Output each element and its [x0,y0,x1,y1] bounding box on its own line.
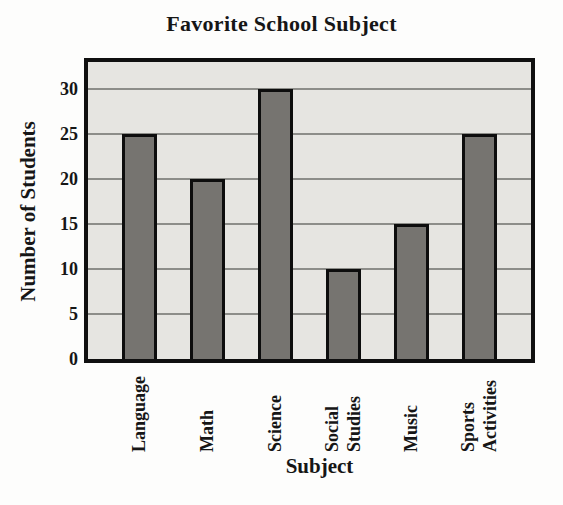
gridline-30 [88,88,531,90]
y-tick-label-0: 0 [26,348,78,370]
bar-social-studies [326,269,361,359]
category-label-math: Math [196,368,218,452]
category-label-music: Music [400,368,422,452]
plot-area [84,58,535,363]
y-tick-label-10: 10 [26,258,78,280]
bar-science [258,89,293,359]
bar-sports-activities [462,134,497,359]
category-label-sports-activities: Sports Activities [457,368,501,452]
x-axis-title: Subject [98,454,541,479]
y-tick-label-5: 5 [26,303,78,325]
category-label-language: Language [128,368,150,452]
y-tick-label-20: 20 [26,168,78,190]
category-label-social-studies: Social Studies [321,368,365,452]
y-tick-label-25: 25 [26,123,78,145]
chart-title: Favorite School Subject [0,11,563,37]
bar-math [190,179,225,359]
category-label-science: Science [264,368,286,452]
y-tick-label-15: 15 [26,213,78,235]
bar-music [394,224,429,359]
y-tick-label-30: 30 [26,78,78,100]
bar-language [122,134,157,359]
bar-chart-figure: Favorite School Subject Number of Studen… [0,0,563,505]
